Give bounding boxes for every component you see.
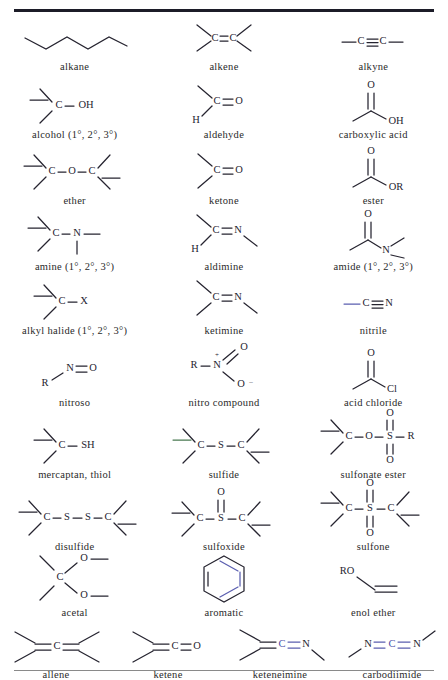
label-carboxylic-acid: carboxylic acid	[339, 129, 408, 140]
cell-ketone: C O ketone	[149, 150, 298, 206]
structure-alkene: C C	[149, 20, 298, 60]
svg-text:S: S	[367, 502, 373, 513]
label-aldehyde: aldehyde	[204, 129, 244, 140]
svg-text:C: C	[213, 95, 220, 106]
table-row: C O C ether	[0, 140, 448, 206]
structure-ether: C O C	[0, 150, 149, 194]
cell-aldimine: C N H aldimine	[149, 212, 298, 272]
svg-text:O: O	[240, 341, 248, 352]
cell-ester: O OR ester	[299, 144, 448, 206]
svg-text:C: C	[48, 165, 55, 176]
cell-carbodiimide: N C N carbodiimide	[336, 624, 448, 680]
structure-amine: C N	[0, 214, 149, 260]
structure-sulfone: C S C O O	[299, 476, 448, 540]
structure-alkane	[0, 24, 149, 60]
svg-text:C: C	[55, 99, 62, 110]
structure-ester: O OR	[299, 144, 448, 194]
cell-ketimine: C N ketimine	[149, 278, 298, 336]
svg-text:C: C	[213, 164, 220, 175]
cell-nitro-compound: R N + O O – nitro compound	[149, 342, 298, 408]
svg-text:N: N	[234, 224, 242, 235]
label-enol-ether: enol ether	[351, 607, 396, 618]
table-row: C X alkyl halide (1°, 2°, 3°) C N	[0, 272, 448, 336]
svg-text:O: O	[193, 640, 201, 651]
svg-text:OR: OR	[389, 181, 404, 192]
svg-text:RO: RO	[340, 565, 355, 576]
svg-text:C: C	[53, 640, 60, 651]
table-row: C allene C	[0, 618, 448, 680]
cell-acetal: C O O acetal	[0, 550, 149, 618]
structure-nitroso: R N O	[0, 352, 149, 396]
svg-text:C: C	[358, 35, 365, 46]
cell-aldehyde: C O H aldehyde	[149, 82, 298, 140]
label-amine: amine (1°, 2°, 3°)	[35, 261, 115, 272]
svg-text:C: C	[363, 297, 370, 308]
svg-text:O: O	[368, 145, 376, 156]
label-alkane: alkane	[60, 61, 89, 72]
cell-aromatic: aromatic	[149, 552, 298, 618]
svg-text:S: S	[64, 511, 70, 522]
svg-text:N: N	[66, 362, 74, 373]
svg-text:+: +	[215, 351, 219, 359]
structure-keteneimine: C N	[224, 624, 336, 668]
label-sulfide: sulfide	[209, 469, 240, 480]
svg-text:N: N	[234, 291, 242, 302]
svg-text:O: O	[366, 430, 374, 441]
structure-mercaptan-thiol: C SH	[0, 424, 149, 468]
svg-text:O: O	[387, 454, 395, 465]
svg-text:OH: OH	[389, 115, 405, 126]
cell-allene: C allene	[0, 626, 112, 680]
svg-text:N: N	[213, 359, 221, 370]
label-acetal: acetal	[62, 607, 88, 618]
svg-text:H: H	[192, 114, 200, 125]
cell-carboxylic-acid: O OH carboxylic acid	[299, 78, 448, 140]
svg-text:OH: OH	[78, 99, 94, 110]
svg-text:O: O	[368, 347, 376, 358]
structure-nitrile: C N	[299, 284, 448, 324]
svg-text:C: C	[380, 35, 387, 46]
cell-ketene: C O ketene	[112, 626, 224, 680]
label-aldimine: aldimine	[204, 261, 243, 272]
svg-text:S: S	[387, 430, 393, 441]
cell-ether: C O C ether	[0, 150, 149, 206]
svg-text:C: C	[58, 439, 65, 450]
structure-alkyl-halide: C X	[0, 280, 149, 324]
structure-sulfonate-ester: C O S R O O	[299, 406, 448, 468]
svg-text:O: O	[80, 552, 88, 563]
cell-acid-chloride: O Cl acid chloride	[299, 346, 448, 408]
top-rule	[14, 9, 434, 12]
svg-text:S: S	[218, 512, 224, 523]
label-sulfoxide: sulfoxide	[203, 541, 245, 552]
label-alkyne: alkyne	[358, 61, 388, 72]
structure-aromatic	[149, 552, 298, 606]
svg-text:C: C	[212, 224, 219, 235]
svg-text:H: H	[191, 243, 199, 254]
cell-sulfone: C S C O O	[299, 476, 448, 552]
svg-text:S: S	[218, 439, 224, 450]
svg-text:O: O	[367, 477, 375, 488]
structure-carboxylic-acid: O OH	[299, 78, 448, 128]
label-allene: allene	[43, 669, 70, 680]
cell-alkene: C C alkene	[149, 20, 298, 72]
svg-text:N: N	[302, 638, 310, 649]
structure-sulfide: C S C	[149, 424, 298, 468]
structure-amide: O N	[299, 208, 448, 260]
table-row: C N amine (1°, 2°, 3°) C	[0, 206, 448, 272]
svg-text:N: N	[383, 244, 391, 255]
svg-text:O: O	[217, 486, 225, 497]
svg-text:C: C	[388, 502, 395, 513]
svg-text:O: O	[368, 79, 376, 90]
svg-text:O: O	[235, 164, 243, 175]
cell-keteneimine: C N keteneimine	[224, 624, 336, 680]
svg-text:O: O	[80, 589, 88, 600]
svg-text:C: C	[346, 430, 353, 441]
structure-disulfide: C S S C	[0, 496, 149, 540]
svg-text:C: C	[197, 439, 204, 450]
table-row: C S S C disulfide	[0, 480, 448, 552]
svg-text:C: C	[58, 295, 65, 306]
label-ketene: ketene	[153, 669, 182, 680]
structure-carbodiimide: N C N	[336, 624, 448, 668]
svg-text:C: C	[212, 291, 219, 302]
cell-alcohol: C OH alcohol (1°, 2°, 3°)	[0, 84, 149, 140]
svg-text:–: –	[248, 378, 253, 386]
